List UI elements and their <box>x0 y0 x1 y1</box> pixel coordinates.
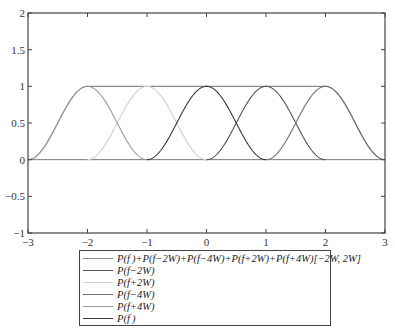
series-line-5 <box>147 86 266 159</box>
y-tick-label: 1 <box>20 80 26 92</box>
legend-label: P(f ) <box>117 313 135 324</box>
x-tick-label: 3 <box>382 236 388 248</box>
x-tick-label: 2 <box>323 236 329 248</box>
legend-item-p-f-minus-2w: P(f−2W) <box>83 264 330 276</box>
legend-label: P(f+4W) <box>117 301 154 312</box>
series-line-3 <box>266 86 385 159</box>
y-tick-label: −0.5 <box>5 190 25 202</box>
x-tick-label: 0 <box>204 236 210 248</box>
x-tick-label: −2 <box>82 236 94 248</box>
legend-label: P(f−2W) <box>117 265 154 276</box>
x-tick-label: 1 <box>263 236 269 248</box>
legend-label: P(f+2W) <box>117 277 154 288</box>
legend-item-sum: P(f )+P(f−2W)+P(f−4W)+P(f+2W)+P(f+4W)[−2… <box>83 252 330 264</box>
series-line-2 <box>88 86 207 159</box>
legend-swatch <box>83 282 113 283</box>
y-tick-label: 2 <box>20 7 26 19</box>
legend: P(f )+P(f−2W)+P(f−4W)+P(f+2W)+P(f+4W)[−2… <box>79 250 331 326</box>
series-line-1 <box>207 86 326 159</box>
plot-area-frame <box>28 13 385 233</box>
legend-swatch <box>83 294 113 295</box>
x-tick-label: −1 <box>141 236 153 248</box>
legend-swatch <box>83 270 113 271</box>
y-axis: −1−0.500.511.52 <box>5 7 385 239</box>
legend-item-p-f-plus-4w: P(f+4W) <box>83 300 330 312</box>
series-line-0 <box>28 86 385 159</box>
y-tick-label: 0 <box>20 154 26 166</box>
x-axis: −3−2−10123 <box>22 13 388 248</box>
legend-label: P(f )+P(f−2W)+P(f−4W)+P(f+2W)+P(f+4W)[−2… <box>117 253 361 264</box>
legend-swatch <box>83 318 113 319</box>
y-tick-label: −1 <box>13 227 25 239</box>
legend-item-p-f-minus-4w: P(f−4W) <box>83 288 330 300</box>
y-tick-label: 1.5 <box>11 44 25 56</box>
legend-item-p-f-plus-2w: P(f+2W) <box>83 276 330 288</box>
series-line-4 <box>28 86 147 159</box>
plot-curves <box>28 86 385 159</box>
line-chart: −3−2−10123 −1−0.500.511.52 <box>0 0 395 250</box>
legend-label: P(f−4W) <box>117 289 154 300</box>
y-tick-label: 0.5 <box>11 117 25 129</box>
legend-item-p-f: P(f ) <box>83 312 330 324</box>
legend-swatch <box>83 258 113 259</box>
legend-swatch <box>83 306 113 307</box>
